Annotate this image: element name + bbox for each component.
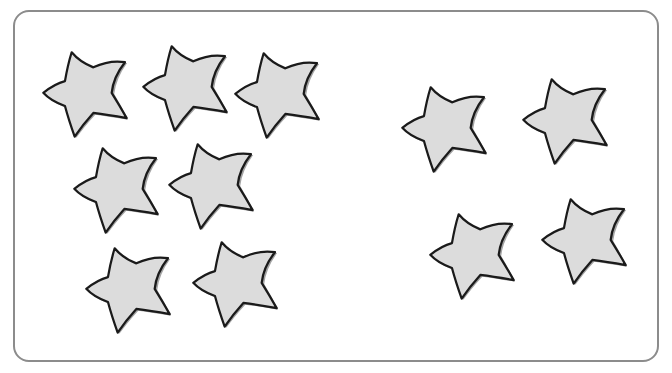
star-icon xyxy=(522,78,608,164)
star-icon xyxy=(541,198,627,284)
star-icon xyxy=(429,213,515,299)
scene-description: Two groups of star shapes inside a round… xyxy=(0,0,1,1)
star-icon xyxy=(142,45,228,131)
star-icon xyxy=(168,143,254,229)
star-icon xyxy=(192,241,278,327)
star-icon xyxy=(234,52,320,138)
star-icon xyxy=(42,51,128,137)
star-icon xyxy=(401,86,487,172)
star-icon xyxy=(73,147,159,233)
star-icon xyxy=(85,247,171,333)
